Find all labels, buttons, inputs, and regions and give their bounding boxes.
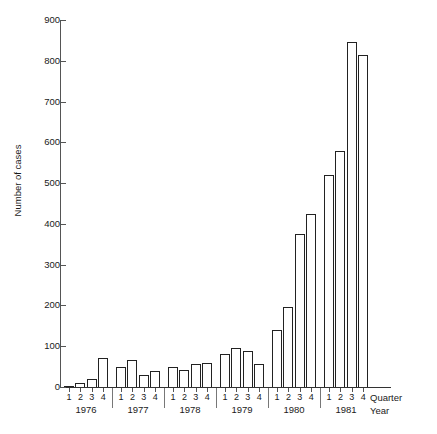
bar — [324, 175, 334, 387]
y-tick-label-300: 300 — [8, 260, 60, 270]
quarter-label-1979-Q4: 4 — [252, 392, 266, 403]
bar — [87, 379, 97, 387]
bar — [335, 151, 345, 388]
bar — [358, 55, 368, 387]
bar — [202, 363, 212, 387]
bar — [272, 330, 282, 387]
bar — [179, 370, 189, 387]
y-tick-label-100: 100 — [8, 341, 60, 351]
quarter-label-1976-Q4: 4 — [96, 392, 110, 403]
bar — [283, 307, 293, 387]
y-tick-label-400: 400 — [8, 219, 60, 229]
y-tick-label-900: 900 — [8, 15, 60, 25]
bar — [243, 351, 253, 387]
year-label-1980: 1980 — [266, 404, 322, 416]
bar — [75, 383, 85, 387]
x-axis-quarter-label: Quarter — [370, 392, 402, 403]
quarter-label-1981-Q4: 4 — [356, 392, 370, 403]
year-label-1979: 1979 — [214, 404, 270, 416]
year-label-1978: 1978 — [162, 404, 218, 416]
bar — [64, 386, 74, 388]
y-tick-label-200: 200 — [8, 300, 60, 310]
bar — [295, 234, 305, 387]
quarter-label-1980-Q4: 4 — [304, 392, 318, 403]
year-label-1981: 1981 — [318, 404, 374, 416]
bar — [347, 42, 357, 387]
y-tick-label-800: 800 — [8, 56, 60, 66]
bar — [254, 364, 264, 387]
bar — [139, 375, 149, 387]
bar — [150, 371, 160, 387]
year-label-1976: 1976 — [58, 404, 114, 416]
bar-chart: Number of cases 010020030040050060070080… — [0, 0, 437, 434]
quarter-label-1977-Q4: 4 — [148, 392, 162, 403]
y-tick-label-0: 0 — [8, 382, 60, 392]
plot-area — [61, 20, 391, 387]
year-label-1977: 1977 — [110, 404, 166, 416]
bar — [191, 364, 201, 387]
bar — [127, 360, 137, 387]
bar — [168, 367, 178, 387]
bar — [116, 367, 126, 387]
quarter-label-1978-Q4: 4 — [200, 392, 214, 403]
y-tick-label-700: 700 — [8, 97, 60, 107]
bar — [231, 348, 241, 387]
bar — [220, 354, 230, 387]
y-tick-label-500: 500 — [8, 178, 60, 188]
y-tick-label-600: 600 — [8, 137, 60, 147]
bar — [306, 214, 316, 387]
bar — [98, 358, 108, 387]
x-axis-area: Quarter Year 123419761234197712341978123… — [61, 388, 421, 434]
